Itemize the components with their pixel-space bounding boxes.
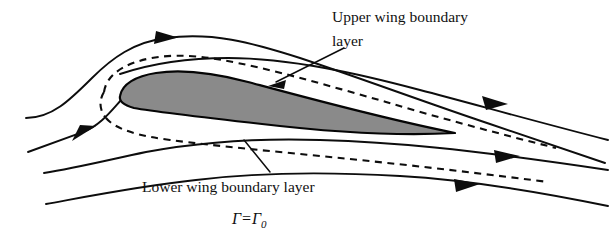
lower-label-leader-line xyxy=(244,140,270,172)
mid-lower-streamline-arrow xyxy=(494,150,520,163)
lower-outer-streamline-arrow xyxy=(454,179,480,192)
circulation-symbol: Γ=Γ xyxy=(231,210,262,227)
stagnation-streamline xyxy=(28,99,122,152)
upper-boundary-layer-label-line1: Upper wing boundary xyxy=(332,8,468,25)
upper-boundary-layer-label-line2: layer xyxy=(332,32,364,49)
wing-cross-section xyxy=(120,71,455,134)
upper-inner-streamline-arrow xyxy=(482,96,508,110)
wing-boundary-layer-diagram: Upper wing boundary layer Lower wing bou… xyxy=(0,0,611,238)
upper-outer-streamline-arrow xyxy=(154,31,178,44)
lower-outer-streamline xyxy=(46,173,608,206)
stagnation-streamline-arrow xyxy=(72,125,96,141)
lower-boundary-layer-label: Lower wing boundary layer xyxy=(142,178,315,195)
figure-container: Upper wing boundary layer Lower wing bou… xyxy=(0,0,611,238)
leading-edge-boundary-layer-wrap xyxy=(100,92,106,118)
circulation-label: Γ=Γ0 xyxy=(231,210,267,230)
circulation-subscript: 0 xyxy=(261,218,267,230)
